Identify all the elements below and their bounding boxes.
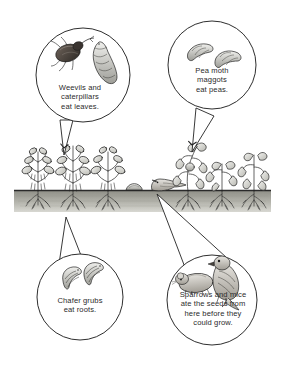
diagram-artwork <box>0 0 285 378</box>
callout-pea-moth[interactable] <box>168 21 256 152</box>
pea-plant-healthy-2 <box>54 144 91 191</box>
pea-plant-wilting-1 <box>173 143 207 191</box>
pea-plant-wilting-2 <box>206 161 237 191</box>
callout-weevils[interactable] <box>36 28 130 155</box>
callout-chafer-grubs[interactable] <box>37 217 123 340</box>
diagram-canvas: Weevils and caterpillars eat leaves. Pea… <box>0 0 285 378</box>
seed-mound <box>126 184 142 190</box>
soil-band <box>14 190 271 212</box>
pea-plant-healthy-3 <box>90 146 126 191</box>
pea-plant-healthy-1 <box>21 147 55 191</box>
callout-sparrows-mice[interactable] <box>157 194 257 345</box>
pea-plant-wilting-3 <box>238 152 269 191</box>
